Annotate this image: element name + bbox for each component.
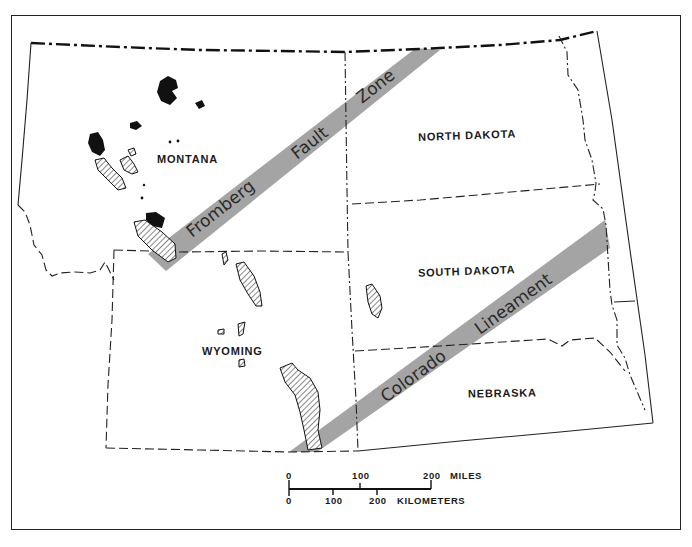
outcrop-hatched (239, 359, 245, 367)
colorado-lineament-band (289, 220, 610, 452)
outcrop-hatched (218, 329, 224, 334)
outcrop-black (177, 140, 180, 143)
outcrop-black (195, 100, 205, 109)
scale-miles-200: 200 (423, 470, 441, 481)
montana-wyoming-border (114, 250, 348, 252)
scale-bar: 0 100 200 MILES 0 100 200 KILOMETERS (286, 470, 482, 506)
scale-km-200: 200 (369, 495, 387, 506)
montana-dakota-border (345, 52, 348, 252)
state-label-nebraska: NEBRASKA (468, 386, 537, 399)
outcrop-hatched (280, 363, 322, 450)
scale-km-0: 0 (286, 495, 292, 506)
state-label-south-dakota: SOUTH DAKOTA (418, 263, 516, 278)
south-dakota-nebraska-border (355, 338, 625, 371)
outcrop-black (143, 184, 145, 186)
scale-km-100: 100 (325, 495, 343, 506)
outcrop-hatched (238, 322, 245, 336)
wyoming-west-border (106, 250, 114, 448)
fromberg-label: Fromberg (182, 176, 258, 242)
minnesota-iowa-border (614, 301, 635, 302)
outcrop-black (141, 197, 144, 200)
montana-idaho-border (18, 205, 114, 280)
lineament-label: Lineament (471, 269, 556, 338)
scale-miles-100: 100 (352, 470, 370, 481)
outcrop-hatched (128, 148, 136, 156)
outcrop-hatched (120, 156, 138, 174)
north-south-dakota-border (352, 184, 600, 204)
colorado-label: Colorado (377, 345, 450, 406)
state-label-montana: MONTANA (157, 153, 218, 165)
scale-miles-unit: MILES (450, 470, 482, 481)
outcrop-hatched (366, 284, 382, 318)
outcrop-black (88, 132, 105, 156)
regional-map: MONTANA NORTH DAKOTA SOUTH DAKOTA WYOMIN… (0, 0, 692, 547)
state-label-wyoming: WYOMING (202, 345, 263, 357)
state-label-north-dakota: NORTH DAKOTA (418, 127, 516, 142)
international-border (31, 31, 597, 52)
outcrop-black (157, 76, 178, 105)
scale-miles-0: 0 (286, 470, 292, 481)
outcrop-hatched (236, 262, 262, 306)
outcrop-hatched (222, 252, 228, 265)
montana-west-border (18, 43, 31, 205)
outcrop-black (130, 121, 142, 130)
nebraska-south-border (358, 423, 653, 451)
outcrop-black (169, 141, 172, 144)
scale-km-unit: KILOMETERS (397, 495, 465, 506)
